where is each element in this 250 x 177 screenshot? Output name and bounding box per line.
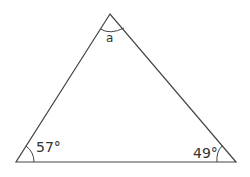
- angle-label-bottom-left: 57°: [36, 139, 61, 155]
- angle-label-bottom-right: 49°: [193, 145, 218, 161]
- triangle-diagram: a 57° 49°: [0, 0, 250, 177]
- angle-label-top: a: [106, 31, 113, 45]
- angle-arc-bottom-left: [26, 146, 34, 162]
